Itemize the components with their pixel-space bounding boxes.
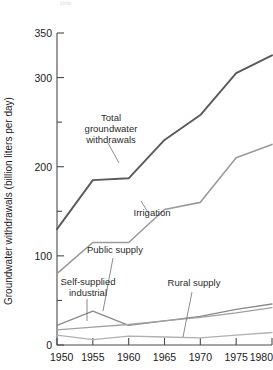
y-tick-label: 0: [46, 339, 52, 351]
page-artifact-text: Units: [60, 0, 72, 6]
annotation-label-public-supply: Public supply: [87, 244, 143, 255]
axis-group: [57, 33, 272, 345]
leader-line-rural-supply: [183, 292, 192, 337]
x-tick-label: 1980: [250, 351, 273, 363]
y-tick-label: 350: [34, 27, 52, 39]
x-tick-label: 1960: [117, 351, 141, 363]
chart-figure: Units Groundwater withdrawals (billion l…: [0, 0, 273, 370]
leader-line-total-groundwater-withdrawals: [108, 143, 119, 163]
x-tick-label: 1950: [50, 351, 74, 363]
x-tick-label: 1955: [81, 351, 105, 363]
y-tick-label: 200: [34, 161, 52, 173]
x-tick-label: 1965: [153, 351, 177, 363]
series-line-public-supply: [57, 308, 272, 330]
annotation-label-rural-supply: Rural supply: [168, 277, 221, 288]
line-chart-canvas: Units Groundwater withdrawals (billion l…: [0, 0, 273, 370]
y-axis-title: Groundwater withdrawals (billion liters …: [3, 97, 14, 305]
x-tick-label: 1975: [224, 351, 248, 363]
y-tick-label: 300: [34, 72, 52, 84]
x-tick-label: 1970: [189, 351, 213, 363]
annotation-label-total-groundwater-withdrawals: Totalgroundwaterwithdrawals: [85, 112, 138, 145]
y-tick-label: 100: [34, 250, 52, 262]
annotation-label-irrigation: Irrigation: [134, 207, 171, 218]
series-line-self-supplied-industrial: [57, 304, 272, 325]
annotation-group: TotalgroundwaterwithdrawalsIrrigationPub…: [61, 112, 221, 337]
